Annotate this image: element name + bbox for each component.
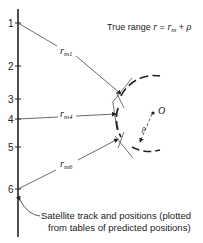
center-label-o: O: [158, 105, 165, 116]
range-line-m4-b: [76, 114, 116, 116]
position-locus-arc-top: [121, 76, 160, 96]
range-line-m1-b: [76, 56, 121, 94]
position-label-4: 4: [8, 114, 14, 125]
range-line-m6-a: [18, 170, 56, 189]
range-label-m1: rm1: [60, 45, 72, 58]
range-line-m1-a: [18, 23, 57, 46]
range-label-m4: rm4: [60, 108, 73, 121]
position-label-1: 1: [8, 18, 14, 29]
caption-line-2: from tables of predicted positions): [48, 222, 191, 233]
range-diagram: True range r = rm + ρ 1 2 3 4 5 6 rm1 rm…: [0, 0, 203, 243]
range-label-m6: rm6: [60, 158, 73, 171]
rho-label: ρ: [141, 124, 146, 133]
position-label-3: 3: [8, 94, 14, 105]
position-label-2: 2: [8, 61, 14, 72]
position-locus-arc-left: [116, 108, 121, 137]
position-label-6: 6: [8, 184, 14, 195]
range-arcs: [112, 78, 133, 158]
position-label-5: 5: [8, 142, 14, 153]
position-locus-arc-bottom: [132, 147, 160, 151]
range-line-m6-b: [78, 139, 118, 160]
true-range-title: True range r = rm + ρ: [107, 21, 192, 34]
caption-leader-line: [20, 200, 40, 216]
caption-line-1: Satellite track and positions (plotted: [41, 210, 191, 221]
range-line-m4-a: [18, 117, 58, 119]
